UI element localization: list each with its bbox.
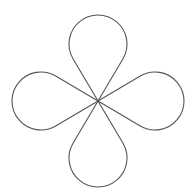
- petal-top: [69, 15, 127, 101]
- four-petal-rosette: [0, 0, 194, 196]
- petal-left: [12, 72, 98, 130]
- diagram-canvas: Four-petal teardrop rosette: [0, 0, 194, 196]
- petal-right: [98, 72, 184, 130]
- petal-bottom: [69, 101, 127, 187]
